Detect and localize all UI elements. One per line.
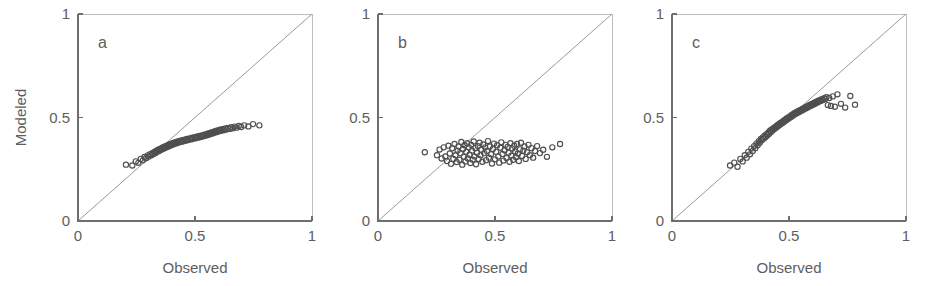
x-tick-label: 0.5 (485, 227, 506, 244)
one-to-one-line (378, 14, 612, 221)
x-tick-label: 0.5 (779, 227, 800, 244)
data-point (843, 105, 848, 110)
y-tick-label: 1 (62, 5, 70, 22)
data-point (447, 151, 452, 156)
y-tick-label: 0.5 (349, 109, 370, 126)
data-point (848, 93, 853, 98)
scatter-panel-a: 00.5100.51aObservedModeled (0, 0, 320, 286)
panel-letter-b: b (398, 34, 407, 51)
data-point (473, 162, 478, 167)
scatter-panel-b: 00.5100.51bObserved (300, 0, 620, 286)
data-point (448, 161, 453, 166)
x-tick-label: 0 (74, 227, 82, 244)
data-point (557, 141, 562, 146)
plot-a: 00.5100.51aObservedModeled (0, 0, 320, 286)
y-tick-label: 0 (362, 212, 370, 229)
x-tick-label: 0 (668, 227, 676, 244)
data-point (520, 153, 525, 158)
data-point (422, 150, 427, 155)
y-tick-label: 0 (62, 212, 70, 229)
x-tick-label: 0.5 (185, 227, 206, 244)
plot-b: 00.5100.51bObserved (300, 0, 620, 286)
y-tick-label: 1 (656, 5, 664, 22)
data-points (727, 92, 857, 170)
data-point (541, 147, 546, 152)
data-point (852, 102, 857, 107)
panel-letter-a: a (98, 34, 107, 51)
data-point (434, 153, 439, 158)
x-axis-title: Observed (462, 259, 527, 276)
data-point (257, 123, 262, 128)
figure-container: 00.5100.51aObservedModeled 00.5100.51bOb… (0, 0, 938, 286)
data-point (835, 92, 840, 97)
x-tick-label: 0 (374, 227, 382, 244)
plot-c: 00.5100.51cObserved (594, 0, 914, 286)
data-point (250, 122, 255, 127)
data-point (529, 146, 534, 151)
x-axis-title: Observed (756, 259, 821, 276)
y-tick-label: 0 (656, 212, 664, 229)
data-point (544, 154, 549, 159)
scatter-panel-c: 00.5100.51cObserved (594, 0, 914, 286)
x-axis-title: Observed (162, 259, 227, 276)
data-point (535, 143, 540, 148)
panel-letter-c: c (692, 34, 700, 51)
data-point (123, 162, 128, 167)
x-tick-label: 1 (902, 227, 910, 244)
y-tick-label: 1 (362, 5, 370, 22)
y-axis-title: Modeled (12, 89, 29, 147)
one-to-one-line (78, 14, 312, 221)
data-point (516, 158, 521, 163)
y-tick-label: 0.5 (643, 109, 664, 126)
data-point (550, 145, 555, 150)
data-point (485, 138, 490, 143)
data-points (123, 122, 262, 169)
data-point (735, 164, 740, 169)
y-tick-label: 0.5 (49, 109, 70, 126)
